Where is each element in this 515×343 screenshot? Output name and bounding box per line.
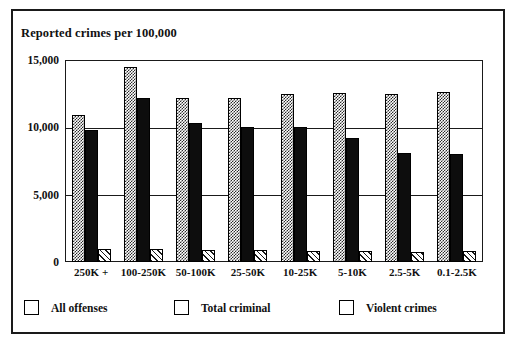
bar-total-criminal (189, 123, 202, 262)
bar-violent-crimes (202, 250, 215, 262)
legend-swatch-violent-crimes (339, 300, 354, 315)
bar-all-offenses (437, 92, 450, 262)
legend-swatch-total-criminal (174, 300, 189, 315)
bar-group (326, 60, 378, 262)
x-axis-tick-labels: 250K +100-250K50-100K25-50K10-25K5-10K2.… (65, 266, 483, 278)
bar-set (431, 60, 483, 262)
bar-total-criminal (346, 138, 359, 262)
bar-group (170, 60, 222, 262)
bar-violent-crimes (411, 252, 424, 262)
chart-title: Reported crimes per 100,000 (21, 26, 177, 41)
bar-set (65, 60, 117, 262)
x-axis-tick-label: 250K + (65, 266, 117, 278)
bar-violent-crimes (150, 249, 163, 262)
bar-all-offenses (124, 67, 137, 262)
bar-violent-crimes (254, 250, 267, 262)
bar-violent-crimes (463, 251, 476, 262)
bar-all-offenses (228, 98, 241, 262)
bar-group (379, 60, 431, 262)
bar-group (117, 60, 169, 262)
legend-swatch-all-offenses (24, 300, 39, 315)
y-axis-tick-labels: 05,00010,00015,000 (0, 60, 59, 262)
bar-group (222, 60, 274, 262)
x-axis-tick-label: 25-50K (222, 266, 274, 278)
y-axis-tick-0: 0 (3, 256, 59, 268)
legend-item-violent-crimes: Violent crimes (339, 300, 484, 315)
x-axis-tick-label: 50-100K (170, 266, 222, 278)
bar-set (170, 60, 222, 262)
legend-label: All offenses (51, 302, 108, 314)
bar-all-offenses (281, 94, 294, 262)
bar-all-offenses (72, 115, 85, 262)
bar-set (379, 60, 431, 262)
y-axis-tick-10000: 10,000 (3, 121, 59, 133)
x-axis-tick-label: 10-25K (274, 266, 326, 278)
bar-total-criminal (137, 98, 150, 262)
bar-all-offenses (333, 93, 346, 262)
bar-total-criminal (241, 127, 254, 262)
bar-all-offenses (176, 98, 189, 262)
legend-item-all-offenses: All offenses (24, 300, 174, 315)
x-axis-tick-label: 5-10K (326, 266, 378, 278)
bar-violent-crimes (359, 251, 372, 262)
bar-group (65, 60, 117, 262)
bar-chart-figure: Reported crimes per 100,000 05,00010,000… (0, 0, 515, 343)
bar-total-criminal (294, 127, 307, 262)
bar-violent-crimes (98, 249, 111, 262)
bar-total-criminal (450, 154, 463, 262)
bar-violent-crimes (307, 251, 320, 262)
x-axis-tick-label: 0.1-2.5K (431, 266, 483, 278)
bar-set (117, 60, 169, 262)
legend-label: Total criminal (201, 302, 271, 314)
chart-legend: All offensesTotal criminalViolent crimes (24, 300, 484, 315)
legend-label: Violent crimes (366, 302, 437, 314)
bar-group (431, 60, 483, 262)
legend-item-total-criminal: Total criminal (174, 300, 339, 315)
bar-groups (65, 60, 483, 262)
bar-set (222, 60, 274, 262)
bar-group (274, 60, 326, 262)
bar-total-criminal (85, 130, 98, 262)
bar-total-criminal (398, 153, 411, 262)
x-axis-tick-label: 2.5-5K (379, 266, 431, 278)
bar-all-offenses (385, 94, 398, 262)
y-axis-tick-15000: 15,000 (3, 54, 59, 66)
x-axis-tick-label: 100-250K (117, 266, 169, 278)
bar-set (274, 60, 326, 262)
y-axis-tick-5000: 5,000 (3, 189, 59, 201)
bar-set (326, 60, 378, 262)
